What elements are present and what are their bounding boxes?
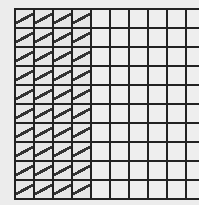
shaded-cell: [16, 86, 35, 105]
empty-cell: [149, 48, 168, 67]
empty-cell: [130, 29, 149, 48]
empty-cell: [168, 67, 187, 86]
empty-cell: [130, 124, 149, 143]
empty-cell: [130, 48, 149, 67]
empty-cell: [130, 67, 149, 86]
empty-cell: [111, 10, 130, 29]
shaded-cell: [35, 86, 54, 105]
shaded-cell: [54, 10, 73, 29]
empty-cell: [168, 124, 187, 143]
empty-cell: [187, 143, 199, 162]
empty-cell: [187, 181, 199, 200]
empty-cell: [149, 67, 168, 86]
shaded-cell: [54, 181, 73, 200]
shaded-cell: [35, 124, 54, 143]
shaded-cell: [35, 48, 54, 67]
empty-cell: [187, 29, 199, 48]
empty-cell: [149, 181, 168, 200]
empty-cell: [187, 10, 199, 29]
empty-cell: [149, 105, 168, 124]
shaded-cell: [35, 143, 54, 162]
empty-cell: [92, 181, 111, 200]
shaded-cell: [54, 86, 73, 105]
empty-cell: [168, 48, 187, 67]
shaded-cell: [73, 162, 92, 181]
empty-cell: [92, 86, 111, 105]
empty-cell: [92, 10, 111, 29]
shaded-cell: [16, 67, 35, 86]
empty-cell: [187, 48, 199, 67]
shaded-cell: [54, 105, 73, 124]
empty-cell: [187, 86, 199, 105]
empty-cell: [168, 181, 187, 200]
empty-cell: [111, 124, 130, 143]
shaded-cell: [54, 162, 73, 181]
empty-cell: [111, 162, 130, 181]
empty-cell: [92, 67, 111, 86]
empty-cell: [149, 86, 168, 105]
shaded-cell: [54, 143, 73, 162]
shaded-cell: [35, 162, 54, 181]
shaded-cell: [16, 181, 35, 200]
empty-cell: [92, 162, 111, 181]
shaded-cell: [35, 10, 54, 29]
empty-cell: [187, 105, 199, 124]
shaded-cell: [16, 48, 35, 67]
shaded-cell: [16, 124, 35, 143]
shaded-cell: [16, 10, 35, 29]
empty-cell: [130, 105, 149, 124]
empty-cell: [130, 181, 149, 200]
shaded-cell: [54, 29, 73, 48]
empty-cell: [149, 162, 168, 181]
empty-cell: [111, 48, 130, 67]
shaded-cell: [73, 67, 92, 86]
shaded-cell: [73, 86, 92, 105]
shaded-cell: [35, 29, 54, 48]
hundred-grid: [14, 8, 199, 200]
empty-cell: [111, 105, 130, 124]
empty-cell: [92, 124, 111, 143]
empty-cell: [111, 86, 130, 105]
empty-cell: [111, 143, 130, 162]
empty-cell: [168, 86, 187, 105]
shaded-cell: [35, 105, 54, 124]
empty-cell: [92, 29, 111, 48]
shaded-cell: [73, 48, 92, 67]
shaded-cell: [73, 10, 92, 29]
shaded-cell: [16, 105, 35, 124]
shaded-cell: [73, 124, 92, 143]
shaded-cell: [16, 162, 35, 181]
shaded-cell: [73, 143, 92, 162]
empty-cell: [168, 143, 187, 162]
empty-cell: [111, 181, 130, 200]
empty-cell: [168, 10, 187, 29]
shaded-cell: [73, 29, 92, 48]
empty-cell: [111, 29, 130, 48]
shaded-cell: [54, 48, 73, 67]
empty-cell: [92, 48, 111, 67]
shaded-cell: [54, 124, 73, 143]
empty-cell: [187, 124, 199, 143]
empty-cell: [168, 105, 187, 124]
shaded-cell: [73, 105, 92, 124]
empty-cell: [130, 10, 149, 29]
empty-cell: [149, 10, 168, 29]
shaded-cell: [16, 29, 35, 48]
shaded-cell: [54, 67, 73, 86]
empty-cell: [92, 143, 111, 162]
empty-cell: [149, 124, 168, 143]
shaded-cell: [73, 181, 92, 200]
shaded-cell: [35, 67, 54, 86]
empty-cell: [149, 143, 168, 162]
empty-cell: [187, 162, 199, 181]
empty-cell: [130, 162, 149, 181]
empty-cell: [168, 162, 187, 181]
empty-cell: [130, 143, 149, 162]
shaded-cell: [35, 181, 54, 200]
shaded-cell: [16, 143, 35, 162]
empty-cell: [130, 86, 149, 105]
empty-cell: [149, 29, 168, 48]
empty-cell: [111, 67, 130, 86]
empty-cell: [168, 29, 187, 48]
empty-cell: [92, 105, 111, 124]
